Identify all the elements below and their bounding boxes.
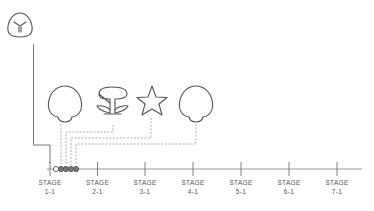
stage-label-7: STAGE 7-1 — [317, 178, 357, 196]
stage-number: 3-1 — [125, 187, 165, 196]
progress-dot-filled — [73, 166, 78, 171]
stage-title: STAGE — [173, 178, 213, 187]
star-icon — [137, 86, 167, 115]
stage-label-2: STAGE 2-1 — [78, 178, 118, 196]
stage-number: 2-1 — [78, 187, 118, 196]
progress-dots — [53, 166, 78, 171]
stage-label-1: STAGE 1-1 — [30, 178, 70, 196]
stage-number: 7-1 — [317, 187, 357, 196]
flower-icon — [97, 87, 128, 114]
stage-title: STAGE — [317, 178, 357, 187]
shield-badge-icon — [8, 13, 32, 37]
stage-label-3: STAGE 3-1 — [125, 178, 165, 196]
stage-title: STAGE — [30, 178, 70, 187]
mushroom-icon — [179, 86, 212, 122]
start-connector-line — [34, 44, 51, 163]
stage-title: STAGE — [78, 178, 118, 187]
stage-number: 4-1 — [173, 187, 213, 196]
progress-dot-hollow — [53, 166, 58, 171]
stage-number: 5-1 — [221, 187, 261, 196]
stage-title: STAGE — [221, 178, 261, 187]
progress-dot-filled — [58, 166, 63, 171]
stage-label-4: STAGE 4-1 — [173, 178, 213, 196]
stage-number: 1-1 — [30, 187, 70, 196]
progress-dot-filled — [63, 166, 68, 171]
stage-label-5: STAGE 5-1 — [221, 178, 261, 196]
connector-item-3 — [71, 118, 151, 165]
stage-label-6: STAGE 6-1 — [269, 178, 309, 196]
stage-title: STAGE — [125, 178, 165, 187]
item-connectors — [61, 118, 196, 165]
stage-number: 6-1 — [269, 187, 309, 196]
progress-dot-filled — [68, 166, 73, 171]
connector-item-4 — [76, 124, 196, 165]
mushroom-icon — [48, 86, 81, 122]
connector-item-2 — [66, 125, 113, 165]
stage-title: STAGE — [269, 178, 309, 187]
